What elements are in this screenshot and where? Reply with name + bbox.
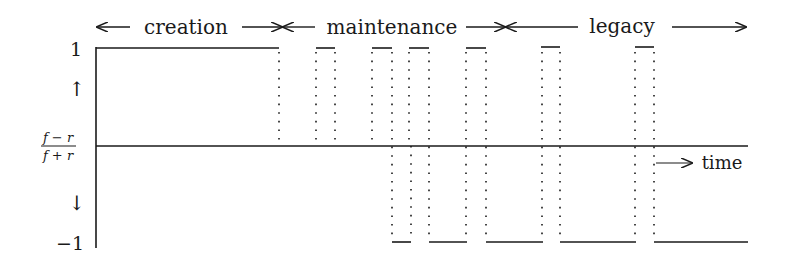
fraction-denominator: f + r (42, 148, 74, 163)
phase-label-legacy: legacy (589, 14, 655, 38)
phase-creation: creation (97, 15, 282, 39)
y-label-fraction: f − r f + r (41, 130, 76, 163)
y-label-top: 1 (70, 38, 82, 60)
time-axis-label: time (656, 152, 742, 173)
signal-high-segments (96, 47, 654, 48)
phase-label-creation: creation (144, 15, 228, 39)
up-arrow-icon: ↑ (69, 77, 86, 101)
lifecycle-diagram: creation maintenance legacy 1 ↑ f − r f … (0, 0, 788, 266)
y-axis: 1 ↑ f − r f + r ↓ −1 (41, 38, 96, 254)
phase-label-maintenance: maintenance (327, 15, 458, 39)
y-label-bottom: −1 (56, 232, 84, 254)
phase-header: creation maintenance legacy (97, 14, 746, 39)
phase-maintenance: maintenance (283, 15, 505, 39)
down-arrow-icon: ↓ (69, 191, 86, 215)
phase-legacy: legacy (506, 14, 746, 38)
x-label-time: time (702, 152, 743, 173)
fraction-numerator: f − r (42, 130, 74, 145)
